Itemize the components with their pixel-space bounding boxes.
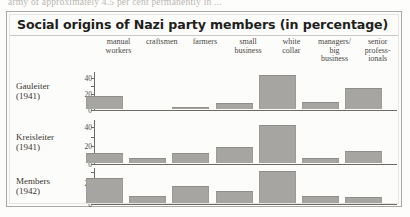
category-header-1: craftsmen <box>140 38 183 47</box>
y-tick-mark <box>91 164 94 165</box>
y-tick-mark <box>91 204 94 205</box>
row-label-line: Kreisleiter <box>16 132 54 142</box>
y-tick-mark <box>91 137 94 138</box>
category-header-3: smallbusiness <box>227 38 270 55</box>
row-label-line: (1941) <box>16 91 49 101</box>
bar-group-1 <box>95 119 410 163</box>
bar <box>172 107 209 109</box>
chart-row-0: Gauleiter(1941)02040 <box>7 72 403 120</box>
category-header-6: seniorprofess-ionals <box>356 38 399 64</box>
plot-area-1: 02040 <box>80 120 397 164</box>
row-label-line: Members <box>16 176 50 186</box>
bar <box>345 197 382 203</box>
x-axis-line <box>94 164 397 165</box>
category-header-line: collar <box>270 47 313 56</box>
bar <box>129 158 166 163</box>
figure-page: army of approximately 4.5 per cent perma… <box>0 0 410 217</box>
bar <box>129 196 166 203</box>
row-label-line: (1941) <box>16 142 54 152</box>
bar <box>259 75 296 109</box>
category-header-row: manualworkerscraftsmenfarmerssmallbusine… <box>94 38 397 71</box>
bar <box>216 191 253 203</box>
bar <box>259 125 296 164</box>
bar <box>302 102 339 109</box>
category-header-0: manualworkers <box>97 38 140 55</box>
chart-row-2: Members(1942)020 <box>7 168 403 214</box>
bar <box>345 88 382 109</box>
title-divider <box>10 35 398 36</box>
y-tick-mark <box>91 94 94 95</box>
row-label-line: Gauleiter <box>16 81 49 91</box>
row-label-0: Gauleiter(1941) <box>16 81 49 101</box>
plot-area-2: 020 <box>80 168 397 204</box>
row-label-2: Members(1942) <box>16 176 50 196</box>
y-tick-mark <box>91 110 94 111</box>
bar <box>345 151 382 163</box>
category-header-line: ionals <box>356 55 399 64</box>
bar <box>172 186 209 203</box>
bar <box>86 178 123 203</box>
row-label-line: (1942) <box>16 186 50 196</box>
figure-container: Social origins of Nazi party members (in… <box>6 11 402 207</box>
bar <box>216 147 253 164</box>
y-tick-mark <box>91 78 94 79</box>
category-header-line: business <box>227 47 270 56</box>
y-tick-mark <box>91 172 94 173</box>
category-header-line: business <box>313 55 356 64</box>
x-axis-line <box>94 110 397 111</box>
y-tick-mark <box>91 86 94 87</box>
category-header-line: workers <box>97 47 140 56</box>
bar <box>172 153 209 163</box>
y-tick-mark <box>91 146 94 147</box>
row-label-1: Kreisleiter(1941) <box>16 132 54 152</box>
category-header-line: craftsmen <box>140 38 183 47</box>
bar <box>302 196 339 203</box>
page-body-text-fragment: army of approximately 4.5 per cent perma… <box>8 0 338 9</box>
category-header-5: managers/bigbusiness <box>313 38 356 64</box>
bar <box>216 103 253 109</box>
figure-title: Social origins of Nazi party members (in… <box>17 17 388 32</box>
bar <box>86 153 123 163</box>
category-header-line: farmers <box>183 38 226 47</box>
bar-group-2 <box>95 167 410 203</box>
chart-row-1: Kreisleiter(1941)02040 <box>7 120 403 174</box>
bar <box>86 96 123 109</box>
bar-group-0 <box>95 71 410 109</box>
x-axis-line <box>94 204 397 205</box>
bar <box>302 158 339 164</box>
bar <box>259 171 296 203</box>
y-tick-mark <box>91 127 94 128</box>
category-header-2: farmers <box>183 38 226 47</box>
category-header-4: whitecollar <box>270 38 313 55</box>
plot-area-0: 02040 <box>80 72 397 110</box>
